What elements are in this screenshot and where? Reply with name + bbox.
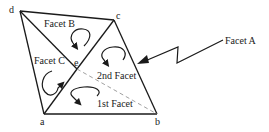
vertex-label-e: e bbox=[74, 57, 79, 68]
vertex-label-c: c bbox=[116, 10, 121, 21]
zigzag-pointer-line bbox=[145, 40, 223, 63]
facet-a-pointer bbox=[137, 40, 223, 64]
vertex-label-a: a bbox=[40, 116, 45, 127]
rotation-arrow-facet-c-icon bbox=[42, 71, 62, 95]
rotation-arrow-first-facet-icon bbox=[71, 87, 99, 103]
rotation-arrow-facet-b-icon bbox=[71, 29, 90, 47]
facet-a-label: Facet A bbox=[225, 35, 257, 46]
first-facet-label: 1st Facet bbox=[97, 98, 133, 109]
vertex-label-b: b bbox=[155, 116, 160, 127]
facet-diagram: d c a b e Facet B Facet C 2nd Facet 1st … bbox=[0, 0, 269, 132]
facet-c-label: Facet C bbox=[34, 55, 65, 66]
second-facet-label: 2nd Facet bbox=[97, 70, 136, 81]
facet-b-label: Facet B bbox=[44, 18, 75, 29]
vertex-label-d: d bbox=[9, 4, 14, 15]
pointer-arrowhead-icon bbox=[137, 55, 149, 64]
rotation-arrow-second-facet-icon bbox=[102, 47, 125, 64]
edge-c-e bbox=[77, 20, 114, 69]
